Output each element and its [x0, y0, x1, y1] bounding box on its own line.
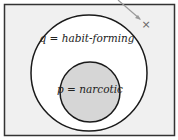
outer-set-label: q = habit-forming [39, 32, 134, 44]
euler-diagram: × q = habit-forming p = narcotic [0, 0, 178, 140]
inner-set-label: p = narcotic [57, 83, 123, 95]
x-marker-icon: × [141, 18, 150, 31]
